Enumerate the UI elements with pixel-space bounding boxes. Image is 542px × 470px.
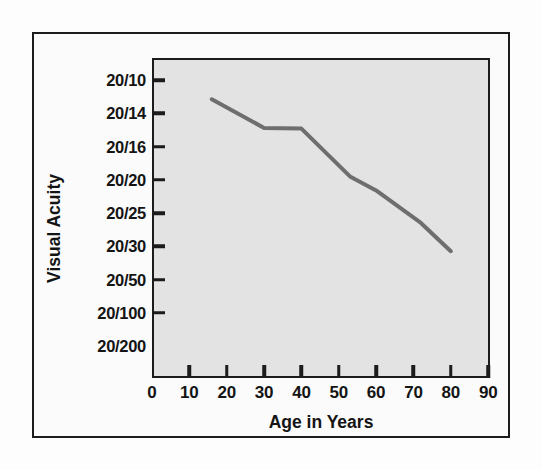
y-axis-tick-label: 20/200 (97, 337, 146, 356)
x-axis-tick-mark (262, 365, 266, 378)
x-axis-title: Age in Years (152, 412, 490, 433)
y-axis-tick-label-group: 20/1020/1420/1620/2020/2520/3020/5020/10… (0, 0, 146, 470)
x-axis-tick-label: 90 (479, 383, 498, 403)
y-axis-tick-label: 20/100 (97, 303, 146, 322)
data-series-line (212, 99, 451, 251)
y-axis-tick-label: 20/14 (106, 104, 146, 123)
y-axis-tick-label: 20/50 (106, 270, 146, 289)
x-axis-tick-label: 30 (255, 383, 274, 403)
y-axis-tick-mark (152, 178, 165, 182)
x-axis-tick-mark (188, 365, 192, 378)
y-axis-tick-label: 20/25 (106, 204, 146, 223)
y-axis-tick-label: 20/30 (106, 237, 146, 256)
x-axis-tick-label: 60 (367, 383, 386, 403)
x-axis-tick-mark (300, 365, 304, 378)
y-axis-tick-label: 20/16 (106, 137, 146, 156)
y-axis-title: Visual Acuity (44, 129, 65, 329)
y-axis-tick-label: 20/20 (106, 170, 146, 189)
x-axis-tick-label: 0 (147, 383, 156, 403)
y-axis-tick-mark (152, 211, 165, 215)
x-axis-tick-label: 20 (217, 383, 236, 403)
x-axis-tick-label: 50 (329, 383, 348, 403)
y-axis-tick-mark (152, 311, 165, 315)
x-axis-tick-label: 70 (404, 383, 423, 403)
figure-container: 20/1020/1420/1620/2020/2520/3020/5020/10… (0, 0, 542, 470)
data-line-svg (152, 58, 490, 378)
x-axis-tick-mark (449, 365, 453, 378)
x-axis-tick-mark (486, 365, 490, 378)
x-axis-tick-mark (225, 365, 229, 378)
y-axis-tick-label: 20/10 (106, 71, 146, 90)
x-axis-tick-label: 80 (442, 383, 461, 403)
y-axis-tick-mark (152, 278, 165, 282)
x-axis-tick-label: 40 (292, 383, 311, 403)
y-axis-tick-mark (152, 78, 165, 82)
y-axis-tick-mark (152, 245, 165, 249)
x-axis-tick-mark (412, 365, 416, 378)
y-axis-tick-mark (152, 112, 165, 116)
x-axis-tick-label: 10 (180, 383, 199, 403)
x-axis-tick-mark (374, 365, 378, 378)
x-axis-tick-mark (337, 365, 341, 378)
y-axis-tick-mark (152, 145, 165, 149)
